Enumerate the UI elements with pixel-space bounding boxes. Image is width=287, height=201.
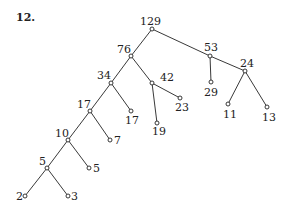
huffman-tree-diagram: 1297653242942233417191113177105523 xyxy=(0,0,287,201)
node-label: 11 xyxy=(223,108,237,121)
tree-node xyxy=(87,166,91,170)
node-label: 23 xyxy=(175,101,189,114)
tree-edge xyxy=(210,56,211,82)
tree-node xyxy=(226,102,230,106)
tree-edge xyxy=(131,56,152,83)
node-label: 53 xyxy=(204,41,218,54)
tree-edge xyxy=(68,111,90,140)
tree-node xyxy=(66,194,70,198)
tree-edge xyxy=(25,168,47,196)
node-label: 29 xyxy=(204,86,218,99)
tree-node xyxy=(108,138,112,142)
node-label: 19 xyxy=(152,125,166,138)
node-label: 24 xyxy=(240,57,254,70)
tree-node xyxy=(23,194,27,198)
node-label: 2 xyxy=(16,190,23,201)
tree-labels: 1297653242942233417191113177105523 xyxy=(16,15,276,201)
tree-edge xyxy=(90,83,111,111)
node-label: 76 xyxy=(117,43,131,56)
tree-node xyxy=(178,96,182,100)
node-label: 42 xyxy=(160,71,174,84)
tree-edge xyxy=(228,71,245,104)
tree-edge xyxy=(111,56,131,83)
tree-edge xyxy=(152,29,210,56)
tree-node xyxy=(150,81,154,85)
tree-node xyxy=(209,80,213,84)
node-label: 5 xyxy=(39,155,46,168)
node-label: 17 xyxy=(125,114,139,127)
node-label: 13 xyxy=(262,111,276,124)
node-label: 17 xyxy=(77,98,91,111)
tree-edge xyxy=(131,29,152,56)
tree-edge xyxy=(245,71,267,107)
node-label: 34 xyxy=(97,69,111,82)
tree-edge xyxy=(152,83,157,123)
tree-edge xyxy=(47,140,68,168)
tree-edge xyxy=(152,83,180,98)
node-label: 3 xyxy=(71,190,78,201)
tree-edge xyxy=(68,140,89,168)
tree-edge xyxy=(111,83,131,111)
node-label: 129 xyxy=(140,15,161,28)
tree-node xyxy=(129,109,133,113)
node-label: 7 xyxy=(114,134,121,147)
tree-node xyxy=(265,105,269,109)
tree-edge xyxy=(47,168,68,196)
tree-node xyxy=(208,54,212,58)
node-label: 5 xyxy=(93,162,100,175)
node-label: 10 xyxy=(55,127,69,140)
tree-edge xyxy=(90,111,110,140)
